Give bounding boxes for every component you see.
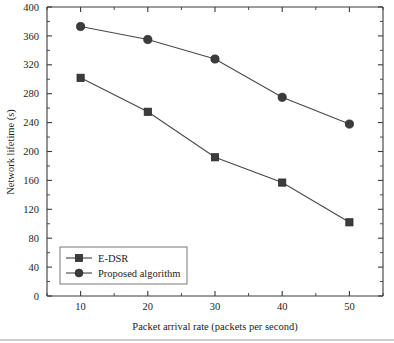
- y-tick-label: 400: [23, 2, 39, 13]
- series-line-1: [81, 27, 350, 125]
- y-tick-label: 360: [23, 31, 39, 42]
- data-point-marker: [77, 74, 84, 81]
- y-tick-label: 40: [29, 262, 40, 273]
- data-series-layer: [77, 22, 354, 225]
- y-axis-tick-labels: 04080120160200240280320360400: [23, 2, 39, 302]
- data-point-marker: [211, 154, 218, 161]
- data-point-marker: [144, 108, 151, 115]
- data-point-marker: [278, 93, 286, 101]
- chart-legend: E-DSR Proposed algorithm: [60, 247, 187, 284]
- line-chart-canvas: 04080120160200240280320360400 1020304050…: [0, 0, 394, 343]
- legend-marker-circle: [75, 269, 83, 277]
- y-tick-label: 80: [29, 233, 40, 244]
- series-proposed-algorithm: [77, 22, 354, 128]
- y-tick-label: 120: [23, 204, 39, 215]
- x-tick-label: 30: [210, 301, 221, 312]
- legend-marker-square: [76, 255, 83, 262]
- x-tick-label: 40: [277, 301, 288, 312]
- y-tick-label: 160: [23, 175, 39, 186]
- data-point-marker: [77, 22, 85, 30]
- y-tick-label: 320: [23, 59, 39, 70]
- data-point-marker: [345, 120, 353, 128]
- chart-figure: 04080120160200240280320360400 1020304050…: [0, 0, 394, 343]
- legend-label-0: E-DSR: [98, 253, 128, 264]
- y-axis-title: Network lifetime (s): [5, 109, 17, 195]
- y-tick-label: 280: [23, 88, 39, 99]
- data-point-marker: [211, 55, 219, 63]
- y-tick-label: 240: [23, 117, 39, 128]
- data-point-marker: [144, 35, 152, 43]
- x-axis-tick-labels: 1020304050: [75, 301, 354, 312]
- legend-label-1: Proposed algorithm: [98, 268, 181, 279]
- series-line-0: [81, 78, 350, 223]
- x-axis-title: Packet arrival rate (packets per second): [132, 321, 298, 333]
- legend-item-e-dsr[interactable]: E-DSR: [66, 253, 128, 264]
- data-point-marker: [279, 179, 286, 186]
- x-tick-label: 50: [344, 301, 355, 312]
- y-tick-label: 0: [34, 291, 39, 302]
- y-tick-label: 200: [23, 146, 39, 157]
- x-tick-label: 20: [143, 301, 154, 312]
- series-e-dsr: [77, 74, 353, 226]
- x-tick-label: 10: [75, 301, 86, 312]
- data-point-marker: [346, 219, 353, 226]
